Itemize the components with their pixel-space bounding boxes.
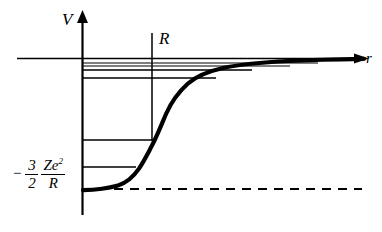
well-depth-expression-numerator: Ze2: [41, 158, 65, 173]
energy-levels-group: [82, 63, 318, 167]
potential-axis-label: V: [62, 11, 72, 28]
well-depth-expression-fraction: Ze2 R: [41, 158, 65, 192]
well-depth-coefficient-fraction: 3 2: [25, 158, 38, 192]
well-depth-expression-denominator: R: [47, 176, 60, 191]
well-depth-label: − 3 2 Ze2 R: [13, 158, 65, 192]
well-depth-minus-sign: −: [13, 166, 21, 181]
nuclear-radius-label: R: [159, 30, 169, 47]
potential-well-figure: V r R − 3 2 Ze2 R: [0, 0, 382, 232]
potential-energy-axis: [77, 10, 88, 215]
radius-axis-label: r: [366, 51, 372, 66]
well-depth-numerator-exponent: 2: [58, 156, 63, 166]
well-depth-coefficient-denominator: 2: [26, 176, 38, 191]
well-depth-coefficient-numerator: 3: [26, 158, 38, 173]
diagram-canvas: [0, 0, 382, 232]
potential-axis-arrowhead: [77, 10, 88, 23]
well-depth-numerator-base: Ze: [43, 157, 58, 173]
